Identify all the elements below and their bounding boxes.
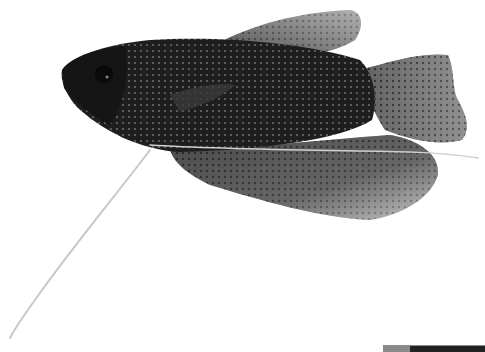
fish-photo (0, 0, 485, 352)
fish-eye (95, 65, 113, 83)
tail-fin (360, 54, 467, 142)
watermark-text (410, 346, 485, 352)
